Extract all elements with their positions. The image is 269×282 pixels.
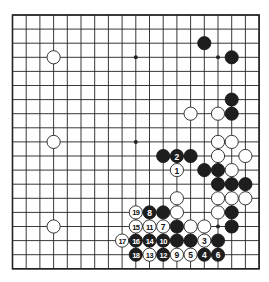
white-stone: 15 <box>129 220 142 233</box>
black-stone-disc <box>184 234 197 247</box>
white-stone <box>211 149 224 162</box>
black-stone <box>225 107 238 120</box>
white-stone-disc <box>225 135 238 148</box>
white-stone-disc <box>225 164 238 177</box>
black-stone-disc <box>170 234 183 247</box>
go-board: 21198151171716141031813129546 <box>0 0 269 282</box>
black-stone-disc <box>225 51 238 64</box>
black-stone-disc <box>211 178 224 191</box>
white-stone-disc <box>47 51 60 64</box>
black-stone: 2 <box>170 149 183 162</box>
black-stone <box>184 149 197 162</box>
star-point <box>134 140 138 144</box>
black-stone-disc <box>211 234 224 247</box>
black-stone <box>184 234 197 247</box>
black-stone <box>211 164 224 177</box>
black-stone-disc <box>157 149 170 162</box>
star-point <box>216 225 220 229</box>
white-stone-disc <box>198 220 211 233</box>
move-number-label: 12 <box>160 251 168 260</box>
white-stone <box>47 51 60 64</box>
black-stone-disc <box>225 220 238 233</box>
white-stone-disc <box>211 206 224 219</box>
move-number-label: 13 <box>146 251 154 260</box>
black-stone <box>170 220 183 233</box>
white-stone <box>211 135 224 148</box>
white-stone <box>170 206 183 219</box>
black-stone-disc <box>225 93 238 106</box>
white-stone <box>211 107 224 120</box>
move-number-label: 3 <box>202 236 207 246</box>
black-stone <box>239 178 252 191</box>
black-stone <box>211 234 224 247</box>
white-stone <box>225 164 238 177</box>
white-stone-disc <box>184 220 197 233</box>
black-stone <box>157 149 170 162</box>
white-stone <box>198 220 211 233</box>
white-stone: 13 <box>143 248 156 261</box>
white-stone: 3 <box>198 234 211 247</box>
black-stone <box>157 206 170 219</box>
white-stone: 11 <box>143 220 156 233</box>
move-number-label: 4 <box>202 250 207 260</box>
white-stone-disc <box>239 192 252 205</box>
white-stone-disc <box>211 149 224 162</box>
white-stone <box>47 220 60 233</box>
white-stone <box>225 192 238 205</box>
black-stone <box>225 51 238 64</box>
move-number-label: 19 <box>132 208 140 217</box>
move-number-label: 1 <box>175 166 180 176</box>
white-stone-disc <box>239 149 252 162</box>
white-stone-disc <box>170 192 183 205</box>
move-number-label: 17 <box>118 237 126 246</box>
move-number-label: 6 <box>216 250 221 260</box>
black-stone-disc <box>170 220 183 233</box>
white-stone: 5 <box>184 248 197 261</box>
white-stone-disc <box>211 192 224 205</box>
white-stone <box>184 220 197 233</box>
white-stone-disc <box>47 135 60 148</box>
black-stone-disc <box>198 164 211 177</box>
black-stone-disc <box>198 37 211 50</box>
white-stone <box>170 192 183 205</box>
black-stone: 10 <box>157 234 170 247</box>
move-number-label: 5 <box>188 250 193 260</box>
black-stone-disc <box>211 164 224 177</box>
white-stone <box>239 192 252 205</box>
move-number-label: 8 <box>147 208 152 218</box>
white-stone: 9 <box>170 248 183 261</box>
black-stone <box>225 206 238 219</box>
white-stone <box>184 107 197 120</box>
white-stone-disc <box>47 220 60 233</box>
white-stone <box>239 149 252 162</box>
white-stone-disc <box>184 107 197 120</box>
move-number-label: 15 <box>132 223 140 232</box>
black-stone <box>198 164 211 177</box>
black-stone <box>211 178 224 191</box>
white-stone: 19 <box>129 206 142 219</box>
black-stone <box>225 220 238 233</box>
black-stone <box>198 37 211 50</box>
black-stone: 8 <box>143 206 156 219</box>
move-number-label: 18 <box>132 251 140 260</box>
black-stone <box>170 234 183 247</box>
black-stone: 4 <box>198 248 211 261</box>
black-stone-disc <box>239 178 252 191</box>
white-stone-disc <box>170 206 183 219</box>
white-stone: 17 <box>116 234 129 247</box>
move-number-label: 11 <box>146 223 153 232</box>
white-stone: 7 <box>157 220 170 233</box>
move-number-label: 7 <box>161 222 166 232</box>
star-point <box>134 55 138 59</box>
white-stone <box>47 135 60 148</box>
black-stone: 12 <box>157 248 170 261</box>
white-stone <box>225 135 238 148</box>
black-stone <box>225 93 238 106</box>
white-stone-disc <box>225 192 238 205</box>
black-stone-disc <box>225 178 238 191</box>
black-stone: 6 <box>211 248 224 261</box>
black-stone: 16 <box>129 234 142 247</box>
black-stone-disc <box>225 206 238 219</box>
black-stone: 18 <box>129 248 142 261</box>
black-stone-disc <box>184 149 197 162</box>
